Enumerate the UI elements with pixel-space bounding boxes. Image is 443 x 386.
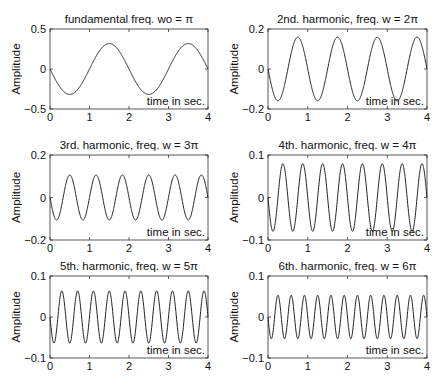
subplot-3rd-harmonic: 3rd. harmonic, freq. w = 3π Amplitude 01… (10, 139, 211, 254)
x-tick-label: 1 (86, 111, 92, 123)
y-tick-label: 0 (40, 192, 46, 204)
x-axis-annotation: time in sec. (147, 344, 205, 356)
x-tick-label: 4 (205, 242, 211, 254)
subplot-4th-harmonic: 4th. harmonic, freq. w = 4π Amplitude 01… (228, 139, 430, 254)
x-tick-label: 1 (86, 242, 92, 254)
x-tick-label: 4 (205, 111, 211, 123)
subplot-2nd-harmonic: 2nd. harmonic, freq. w = 2π Amplitude 01… (228, 13, 430, 123)
y-tick-label: −0.2 (24, 234, 46, 246)
signal-curve (50, 175, 208, 220)
y-tick-label: 0 (258, 192, 264, 204)
y-tick-label: −0.1 (24, 352, 46, 364)
x-tick-label: 2 (344, 111, 350, 123)
subplot-title: 3rd. harmonic, freq. w = 3π (60, 139, 199, 151)
y-tick-label: 0 (258, 311, 264, 323)
signal-curve (268, 37, 427, 101)
x-tick-label: 3 (165, 360, 171, 372)
x-axis-annotation: time in sec. (366, 95, 424, 107)
x-tick-label: 4 (205, 360, 211, 372)
subplot-title: fundamental freq. wo = π (65, 13, 194, 25)
subplot-fundamental: fundamental freq. wo = π Amplitude 01234… (10, 13, 211, 123)
x-tick-label: 2 (344, 360, 350, 372)
x-tick-label: 2 (126, 111, 132, 123)
x-axis-annotation: time in sec. (147, 95, 205, 107)
x-tick-label: 0 (47, 242, 53, 254)
y-tick-label: −0.2 (242, 103, 264, 115)
x-tick-label: 3 (384, 111, 390, 123)
x-tick-label: 1 (305, 242, 311, 254)
subplot-6th-harmonic: 6th. harmonic, freq. w = 6π Amplitude 01… (228, 260, 430, 372)
y-tick-label: 0 (40, 63, 46, 75)
x-axis-annotation: time in sec. (366, 344, 424, 356)
y-axis-label: Amplitude (228, 291, 240, 342)
x-tick-label: 3 (384, 360, 390, 372)
y-tick-label: 0 (40, 311, 46, 323)
signal-curve (50, 44, 208, 95)
x-axis-annotation: time in sec. (366, 226, 424, 238)
subplot-title: 6th. harmonic, freq. w = 6π (278, 260, 416, 272)
subplot-title: 5th. harmonic, freq. w = 5π (60, 260, 198, 272)
x-tick-label: 3 (165, 111, 171, 123)
x-tick-label: 0 (47, 111, 53, 123)
y-axis-label: Amplitude (10, 291, 22, 342)
y-tick-label: 0.2 (249, 23, 264, 35)
x-tick-label: 2 (126, 242, 132, 254)
signal-curve (268, 295, 427, 338)
x-tick-label: 0 (265, 360, 271, 372)
y-axis-label: Amplitude (10, 43, 22, 94)
x-tick-label: 4 (424, 360, 430, 372)
subplot-5th-harmonic: 5th. harmonic, freq. w = 5π Amplitude 01… (10, 260, 211, 372)
y-tick-label: 0.1 (31, 270, 46, 282)
x-tick-label: 0 (47, 360, 53, 372)
x-tick-label: 1 (305, 360, 311, 372)
signal-curve (268, 164, 427, 232)
y-tick-label: 0 (258, 63, 264, 75)
x-tick-label: 4 (424, 242, 430, 254)
y-tick-label: −0.1 (242, 352, 264, 364)
y-tick-label: 0.1 (249, 270, 264, 282)
x-tick-label: 3 (384, 242, 390, 254)
y-tick-label: −0.1 (242, 234, 264, 246)
harmonics-figure: fundamental freq. wo = π Amplitude 01234… (0, 0, 443, 386)
subplot-title: 4th. harmonic, freq. w = 4π (278, 139, 416, 151)
signal-curve (50, 291, 208, 343)
x-tick-label: 2 (126, 360, 132, 372)
x-axis-annotation: time in sec. (147, 226, 205, 238)
x-tick-label: 2 (344, 242, 350, 254)
x-tick-label: 4 (424, 111, 430, 123)
x-tick-label: 1 (305, 111, 311, 123)
y-tick-label: 0.2 (31, 149, 46, 161)
y-tick-label: 0.1 (249, 149, 264, 161)
y-axis-label: Amplitude (228, 43, 240, 94)
y-axis-label: Amplitude (10, 172, 22, 223)
y-axis-label: Amplitude (228, 172, 240, 223)
x-tick-label: 0 (265, 242, 271, 254)
x-tick-label: 3 (165, 242, 171, 254)
y-tick-label: 0.5 (31, 23, 46, 35)
y-tick-label: −0.5 (24, 103, 46, 115)
x-tick-label: 1 (86, 360, 92, 372)
subplot-title: 2nd. harmonic, freq. w = 2π (277, 13, 418, 25)
x-tick-label: 0 (265, 111, 271, 123)
